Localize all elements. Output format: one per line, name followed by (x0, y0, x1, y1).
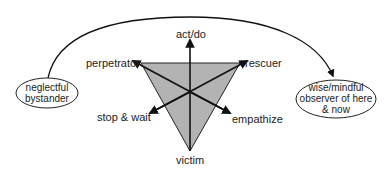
neglectful-bystander-node: neglectful bystander (17, 82, 77, 104)
rescuer-label: rescuer (245, 57, 282, 69)
act-do-label: act/do (176, 28, 206, 40)
neglectful-bystander-line1: neglectful (17, 82, 77, 93)
empathize-label: empathize (232, 113, 283, 125)
wise-observer-line3: & now (296, 104, 376, 115)
perpetrator-label: perpetrator (86, 57, 140, 69)
stop-wait-label: stop & wait (97, 111, 151, 123)
victim-label: victim (176, 154, 204, 166)
wise-observer-line1: wise/mindful (296, 82, 376, 93)
wise-observer-node: wise/mindful observer of here & now (296, 82, 376, 115)
wise-observer-line2: observer of here (296, 93, 376, 104)
neglectful-bystander-line2: bystander (17, 93, 77, 104)
drama-triangle-diagram: act/do perpetrator rescuer stop & wait e… (0, 0, 388, 170)
